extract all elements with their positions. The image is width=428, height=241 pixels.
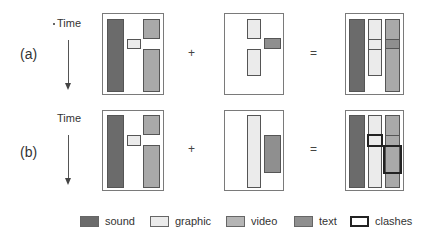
clash-box (383, 145, 402, 174)
legend-item-graphic: graphic (150, 215, 211, 227)
graphic-block (247, 49, 261, 76)
arrow-down-icon (65, 83, 71, 90)
scan-artifact-dot (53, 23, 55, 25)
text-block (385, 39, 400, 49)
legend-item-clashes: clashes (350, 215, 412, 227)
video-divider (385, 135, 400, 136)
clash-box (367, 134, 383, 147)
video-block (143, 49, 160, 92)
panel-a-left (102, 13, 164, 95)
legend-swatch-graphic (150, 216, 169, 227)
legend-swatch-text (294, 216, 313, 227)
time-arrow-a (68, 40, 69, 84)
video-block (143, 19, 160, 39)
row-label-b: (b) (20, 144, 37, 160)
graphic-block (368, 19, 382, 76)
panel-a-result (345, 13, 404, 95)
legend-item-text: text (294, 215, 337, 227)
graphic-block (368, 115, 382, 188)
legend-label: graphic (175, 215, 211, 227)
legend-swatch-clashes (350, 216, 369, 227)
time-label-b: Time (57, 112, 81, 124)
equals-sign-a: = (310, 46, 317, 60)
graphic-divider (368, 39, 382, 40)
legend-item-video: video (226, 215, 277, 227)
panel-b-result (345, 110, 404, 191)
legend-swatch-video (226, 216, 245, 227)
sound-block (349, 19, 365, 92)
time-label-a: Time (57, 17, 81, 29)
time-arrow-b (68, 135, 69, 179)
legend-label: text (319, 215, 337, 227)
legend-label: video (251, 215, 277, 227)
row-label-a: (a) (20, 46, 37, 62)
arrow-down-icon (65, 178, 71, 185)
video-block (385, 19, 400, 92)
graphic-block (247, 115, 261, 188)
panel-b-middle (224, 110, 284, 191)
equals-sign-b: = (310, 142, 317, 156)
plus-sign-b: + (188, 142, 195, 156)
legend-label: clashes (375, 215, 412, 227)
graphic-block (247, 19, 261, 39)
graphic-block (127, 135, 141, 146)
graphic-block (127, 39, 141, 49)
sound-block (107, 19, 124, 92)
graphic-divider (368, 49, 382, 50)
video-block (143, 115, 160, 135)
panel-a-middle (224, 13, 284, 95)
sound-block (107, 115, 124, 188)
plus-sign-a: + (188, 46, 195, 60)
text-block (264, 135, 281, 173)
legend-item-sound: sound (80, 215, 135, 227)
text-block (264, 38, 281, 49)
panel-b-left (102, 110, 164, 191)
legend-swatch-sound (80, 216, 99, 227)
sound-block (349, 115, 365, 188)
video-block (143, 145, 160, 188)
legend-label: sound (105, 215, 135, 227)
